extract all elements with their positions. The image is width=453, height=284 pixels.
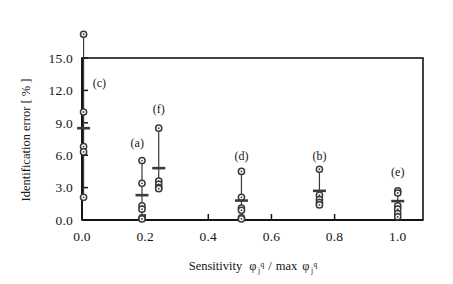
y-tick-label-0.0: 0.0 <box>56 213 74 228</box>
data-point-center <box>83 111 85 113</box>
data-point-center <box>83 146 85 148</box>
cluster-label-f: (f) <box>153 102 165 116</box>
data-point-center <box>158 127 160 129</box>
x-title-sup-1: q <box>260 260 264 269</box>
data-point-center <box>141 160 143 162</box>
x-tick-label-0.0: 0.0 <box>73 229 91 244</box>
data-point-center <box>397 216 399 218</box>
scatter-chart: 0.03.06.09.012.015.0 0.00.20.40.60.81.0 … <box>0 0 453 284</box>
x-tick-label-0.2: 0.2 <box>136 229 153 244</box>
y-tick-label-15.0: 15.0 <box>49 51 73 66</box>
x-title-phi-1: φ <box>249 259 256 273</box>
data-point-center <box>141 218 143 220</box>
data-point-center <box>83 33 85 35</box>
data-point-center <box>83 151 85 153</box>
x-tick-label-0.8: 0.8 <box>326 229 344 244</box>
data-point-center <box>241 209 243 211</box>
x-tick-label-1.0: 1.0 <box>389 229 407 244</box>
y-tick-label-9.0: 9.0 <box>56 116 74 131</box>
y-tick-label-6.0: 6.0 <box>56 148 74 163</box>
y-axis-title: Identification error [ % ] <box>19 79 33 202</box>
y-tick-label-12.0: 12.0 <box>49 83 73 98</box>
data-point-center <box>141 182 143 184</box>
cluster-label-b: (b) <box>312 149 326 163</box>
figure-background <box>0 0 453 284</box>
data-point-center <box>241 171 243 173</box>
data-point-center <box>319 204 321 206</box>
data-point-center <box>158 188 160 190</box>
x-title-max: max <box>276 259 298 273</box>
cluster-label-d: (d) <box>234 149 248 163</box>
cluster-label-c: (c) <box>93 76 106 90</box>
data-point-center <box>141 208 143 210</box>
x-title-slash: / <box>268 259 272 273</box>
x-tick-label-0.6: 0.6 <box>263 229 281 244</box>
data-point-center <box>397 192 399 194</box>
data-point-center <box>83 196 85 198</box>
x-title-sup-2: q <box>314 260 318 269</box>
x-title-phi-2: φ <box>302 259 309 273</box>
data-point-center <box>241 196 243 198</box>
data-point-center <box>241 218 243 220</box>
cluster-label-a: (a) <box>131 136 144 150</box>
y-axis-title-text: Identification error [ % ] <box>19 79 33 202</box>
y-tick-label-3.0: 3.0 <box>56 180 74 195</box>
x-title-word: Sensitivity <box>189 259 243 273</box>
chart-figure: 0.03.06.09.012.015.0 0.00.20.40.60.81.0 … <box>0 0 453 284</box>
cluster-label-e: (e) <box>391 165 404 179</box>
data-point-center <box>319 168 321 170</box>
x-tick-label-0.4: 0.4 <box>200 229 218 244</box>
